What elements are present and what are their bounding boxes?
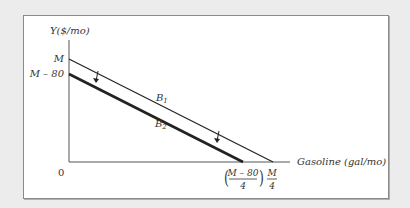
x-tick-m-over-4: M 4 bbox=[266, 168, 277, 191]
y-tick-m: M bbox=[53, 53, 65, 64]
svg-text:M – 80: M – 80 bbox=[227, 168, 259, 178]
svg-text:4: 4 bbox=[268, 181, 275, 191]
budget-line-b1 bbox=[69, 59, 273, 162]
origin-label: 0 bbox=[58, 167, 64, 178]
svg-text:M: M bbox=[266, 168, 277, 178]
svg-text:4: 4 bbox=[239, 181, 246, 191]
svg-text:): ) bbox=[259, 168, 264, 189]
y-axis-label: Y($/mo) bbox=[50, 25, 90, 36]
budget-constraint-diagram: Y($/mo) Gasoline (gal/mo) 0 M M – 80 B1 … bbox=[0, 0, 410, 208]
b2-label: B2 bbox=[154, 118, 167, 131]
y-tick-m-minus-80: M – 80 bbox=[29, 68, 65, 79]
x-tick-m-minus-80-over-4: ( M – 80 4 ) bbox=[224, 168, 264, 191]
x-axis-label: Gasoline (gal/mo) bbox=[297, 156, 386, 167]
